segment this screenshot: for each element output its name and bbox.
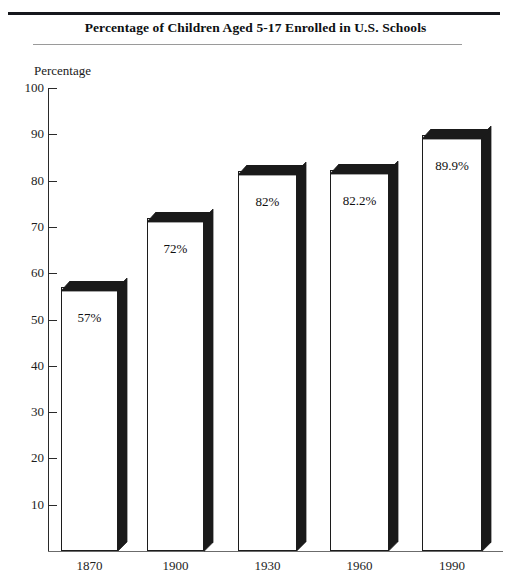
bar-side-face: [204, 209, 214, 552]
bar-value-label: 82%: [239, 194, 296, 210]
y-axis-tick-label: 70: [0, 220, 44, 233]
bar-side-face: [118, 278, 128, 552]
y-axis-tick-label: 100: [0, 81, 44, 94]
bar-side-face: [297, 162, 307, 552]
bar-value-label: 72%: [148, 241, 203, 257]
bar-value-label: 82.2%: [331, 193, 388, 209]
bar-side-face: [389, 161, 399, 552]
y-axis-tick-label: 30: [0, 405, 44, 418]
y-axis-tick-label: 90: [0, 127, 44, 140]
bar-1990[interactable]: 89.9%: [422, 135, 482, 551]
x-axis-line: [48, 551, 503, 552]
bar-side-face: [482, 126, 492, 552]
bar-top-face: [422, 126, 491, 136]
y-axis-tick-label: 60: [0, 266, 44, 279]
y-axis-tick-mark: [49, 458, 57, 459]
chart-page: Percentage of Children Aged 5-17 Enrolle…: [0, 0, 511, 587]
y-axis-tick-label: 40: [0, 359, 44, 372]
y-axis-tick-label: 10: [0, 498, 44, 511]
y-axis-tick-mark: [49, 412, 57, 413]
y-axis-tick-label: 50: [0, 313, 44, 326]
x-axis-tick-label-1870: 1870: [41, 558, 138, 574]
y-axis-tick-mark: [49, 181, 57, 182]
bar-top-face: [61, 278, 127, 288]
bar-top-face: [147, 209, 213, 219]
bar-front-face: 82%: [238, 171, 297, 551]
bar-1930[interactable]: 82%: [238, 171, 297, 551]
bar-value-label: 57%: [62, 310, 117, 326]
y-axis-tick-label: 20: [0, 451, 44, 464]
y-axis-tick-mark: [49, 227, 57, 228]
y-axis-tick-mark: [49, 505, 57, 506]
bar-front-face: 82.2%: [330, 170, 389, 551]
bar-value-label: 89.9%: [423, 158, 481, 174]
y-axis-tick-mark: [49, 366, 57, 367]
y-axis-tick-mark: [49, 273, 57, 274]
plot-area: 100908070605040302010 57%72%82%82.2%89.9…: [0, 0, 511, 587]
bar-front-face: 89.9%: [422, 135, 482, 551]
y-axis-tick-label: 80: [0, 174, 44, 187]
bar-front-face: 72%: [147, 218, 204, 551]
x-axis-tick-label-1900: 1900: [127, 558, 224, 574]
bar-front-face: 57%: [61, 287, 118, 551]
bar-top-face: [330, 161, 398, 171]
bar-1870[interactable]: 57%: [61, 287, 118, 551]
y-axis-tick-mark: [49, 320, 57, 321]
bar-1960[interactable]: 82.2%: [330, 170, 389, 551]
y-axis-tick-mark: [49, 134, 57, 135]
y-axis-tick-mark: [49, 88, 57, 89]
x-axis-tick-label-1930: 1930: [218, 558, 317, 574]
x-axis-tick-label-1960: 1960: [310, 558, 409, 574]
x-axis-tick-label-1990: 1990: [402, 558, 502, 574]
bar-1900[interactable]: 72%: [147, 218, 204, 551]
bar-top-face: [238, 162, 306, 172]
